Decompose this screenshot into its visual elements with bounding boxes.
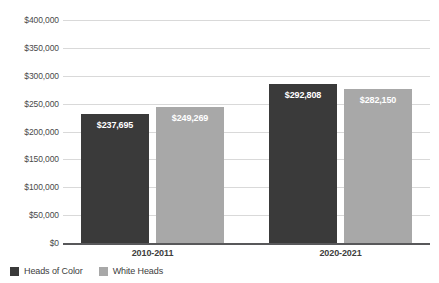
y-tick-label-200000: $200,000 [1,127,59,137]
y-tick-label-150000: $150,000 [1,154,59,164]
bar-white-heads-2020-2021[interactable]: $282,150 [344,89,412,243]
legend-entry-white-heads[interactable]: White Heads [99,266,163,276]
y-axis-labels: $400,000 $350,000 $300,000 $250,000 $200… [0,0,59,283]
bar-value-label: $237,695 [81,120,149,130]
y-tick-label-50000: $50,000 [1,210,59,220]
legend-swatch-icon [99,267,108,276]
bar-value-label: $282,150 [344,95,412,105]
y-tick-label-350000: $350,000 [1,43,59,53]
bar-value-label: $292,808 [269,90,337,100]
bar-heads-of-color-2020-2021[interactable]: $292,808 [269,84,337,244]
y-tick-label-300000: $300,000 [1,71,59,81]
legend-entry-heads-of-color[interactable]: Heads of Color [10,266,83,276]
bar-white-heads-2010-2011[interactable]: $249,269 [156,107,224,243]
gridline-350000 [63,48,430,49]
legend-swatch-icon [10,267,19,276]
y-tick-label-400000: $400,000 [1,15,59,25]
x-axis-line [63,243,430,245]
category-label-2010-2011: 2010-2011 [81,248,224,258]
gridline-400000 [63,20,430,21]
legend-label: White Heads [113,266,163,276]
category-label-2020-2021: 2020-2021 [269,248,412,258]
bar-value-label: $249,269 [156,113,224,123]
bar-heads-of-color-2010-2011[interactable]: $237,695 [81,114,149,244]
legend: Heads of Color White Heads [10,266,163,276]
bar-chart: $400,000 $350,000 $300,000 $250,000 $200… [0,0,439,283]
y-tick-label-0: $0 [1,238,59,248]
gridline-300000 [63,76,430,77]
y-tick-label-250000: $250,000 [1,99,59,109]
y-tick-label-100000: $100,000 [1,182,59,192]
legend-label: Heads of Color [24,266,83,276]
